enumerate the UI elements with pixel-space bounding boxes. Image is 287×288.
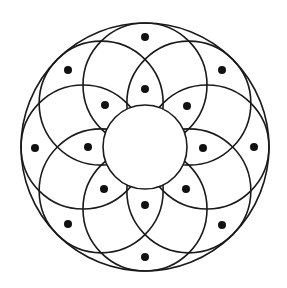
- dot-marker: [84, 143, 92, 151]
- dot-marker: [100, 185, 108, 193]
- dot-marker: [218, 66, 226, 74]
- inner-circle: [103, 105, 187, 189]
- dot-marker: [64, 66, 72, 74]
- diagram-canvas: [0, 0, 287, 288]
- dot-marker: [182, 185, 190, 193]
- dot-marker: [183, 102, 191, 110]
- dot-marker: [250, 143, 258, 151]
- dot-marker: [141, 85, 149, 93]
- dot-marker: [199, 144, 207, 152]
- rosette-diagram: [0, 0, 287, 288]
- dot-marker: [101, 101, 109, 109]
- dot-marker: [64, 220, 72, 228]
- dot-marker: [218, 221, 226, 229]
- dot-marker: [141, 201, 149, 209]
- dot-marker: [141, 253, 149, 261]
- dot-marker: [141, 33, 149, 41]
- dot-marker: [31, 144, 39, 152]
